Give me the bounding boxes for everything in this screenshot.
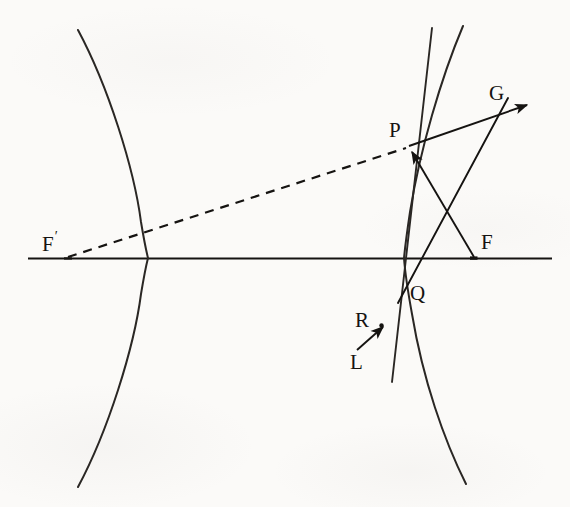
- label-p: P: [389, 120, 401, 141]
- label-f-prime: F′: [42, 232, 57, 255]
- ray-P-to-G: [409, 105, 527, 146]
- label-q: Q: [410, 283, 425, 304]
- ray-F-to-P: [412, 152, 474, 257]
- label-f-prime-letter: F: [42, 232, 54, 256]
- tangent-line-at-P: [392, 28, 432, 382]
- label-f-prime-mark: ′: [55, 229, 58, 244]
- label-f: F: [481, 232, 493, 253]
- point-marker-R: [379, 323, 383, 327]
- label-r: R: [355, 310, 369, 331]
- ray-Q-to-G: [398, 98, 508, 303]
- diagram-canvas: F′ F P G Q R L: [0, 0, 570, 507]
- label-l: L: [350, 352, 363, 373]
- focus-marker-f-prime: [64, 257, 72, 259]
- dashed-line-Fprime-to-P: [68, 148, 406, 257]
- right-hyperbola-branch: [404, 26, 466, 484]
- label-g: G: [489, 83, 504, 104]
